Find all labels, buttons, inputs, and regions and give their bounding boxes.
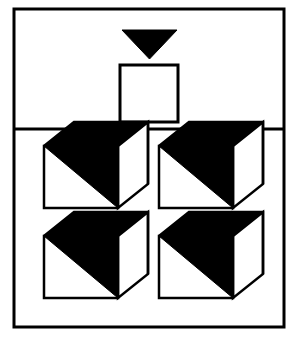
figure-canvas [0, 0, 296, 343]
figure-root: Visual reasoning figure: triangle and sq… [0, 0, 296, 343]
empty-square-outline [120, 65, 178, 122]
